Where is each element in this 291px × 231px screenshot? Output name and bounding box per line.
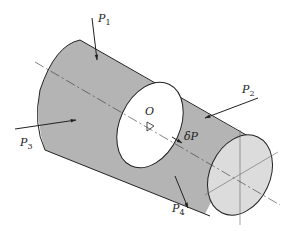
force-p2-arrow [205,98,258,118]
cylinder-section-diagram: O δP P1 P2 P3 P4 [0,0,291,231]
force-p2-label: P2 [241,83,255,98]
origin-label: O [145,105,154,118]
force-p3-label: P3 [19,136,33,151]
force-p1-label: P1 [97,12,111,27]
delta-force-label: δP [184,130,199,143]
